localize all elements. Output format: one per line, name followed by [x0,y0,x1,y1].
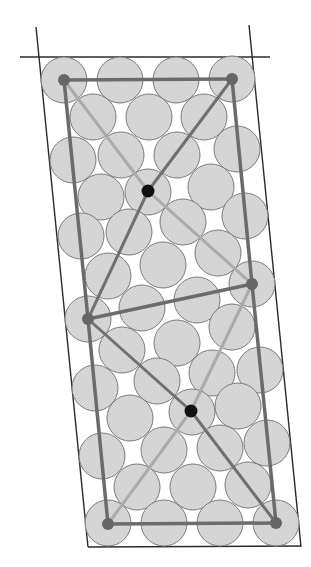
bottom-boundary-line [88,546,301,547]
center-point [142,185,155,198]
packed-circle [126,94,172,140]
lattice-point [82,313,94,325]
lattice-point [270,517,282,529]
center-point [185,405,198,418]
packed-circle [154,132,200,178]
lattice-point [102,518,114,530]
diagram-canvas [0,0,311,567]
packed-circle [140,242,186,288]
packed-circle [107,395,153,441]
lattice-point [226,73,238,85]
circle-packing-diagram [0,0,311,567]
cell-bottom-edge [108,523,276,524]
cell-top-edge [64,79,232,80]
lattice-point [246,278,258,290]
lattice-point [58,74,70,86]
packed-circle [215,383,261,429]
